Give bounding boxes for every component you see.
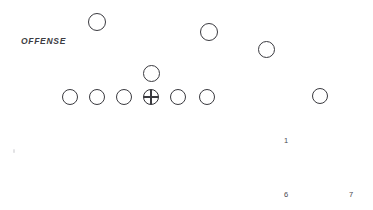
play-diagram-canvas: OFFENSE 167 — [0, 0, 373, 210]
route-number-1: 1 — [284, 136, 288, 145]
left-wide-receiver-marker[interactable] — [88, 13, 106, 31]
left-inside-lineman-marker[interactable] — [116, 89, 132, 105]
route-number-7: 7 — [349, 190, 353, 199]
center-cross-horizontal-icon — [144, 96, 158, 97]
quarterback-marker[interactable] — [143, 65, 160, 82]
right-wide-receiver-marker[interactable] — [258, 41, 275, 58]
route-number-6: 6 — [284, 190, 288, 199]
scan-speck — [13, 149, 15, 153]
left-tackle-marker[interactable] — [62, 89, 78, 105]
far-right-end-marker[interactable] — [312, 88, 328, 104]
offense-label: OFFENSE — [21, 36, 66, 46]
right-guard-marker[interactable] — [170, 89, 186, 105]
center-ball-marker[interactable] — [143, 89, 159, 105]
right-tackle-marker[interactable] — [199, 89, 215, 105]
left-guard-marker[interactable] — [89, 89, 105, 105]
right-slot-receiver-marker[interactable] — [200, 23, 218, 41]
